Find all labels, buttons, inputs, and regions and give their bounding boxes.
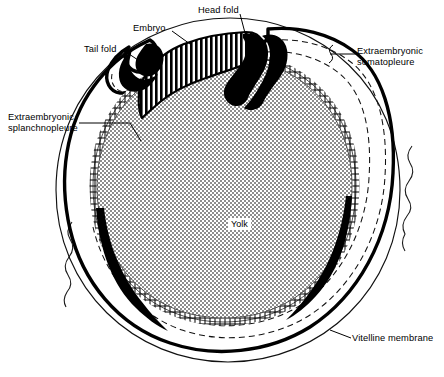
label-extraembryonic-splanchnopleure: Extraembryonic splanchnopleure [8, 112, 78, 134]
figure-canvas: Head fold Embryo Tail fold Extraembryoni… [0, 0, 444, 377]
leader-vitelline [330, 330, 351, 338]
leader-embryo [172, 31, 190, 44]
label-yolk: Yolk [228, 218, 251, 230]
label-vitelline-membrane: Vitelline membrane [352, 333, 433, 344]
label-head-fold: Head fold [198, 5, 239, 16]
yolk-mass [97, 58, 352, 318]
label-embryo: Embryo [133, 23, 166, 34]
label-extraembryonic-somatopleure: Extraembryonic somatopleure [357, 46, 423, 68]
label-tail-fold: Tail fold [84, 44, 116, 55]
